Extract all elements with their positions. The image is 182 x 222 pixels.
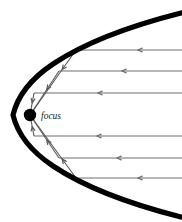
parabolic-reflector-figure: focus <box>0 0 182 222</box>
diagram-canvas: focus <box>0 0 182 222</box>
focus-point-dot <box>24 109 36 121</box>
arrowhead-stroke <box>47 85 48 90</box>
focus-label: focus <box>41 111 61 121</box>
